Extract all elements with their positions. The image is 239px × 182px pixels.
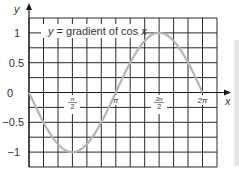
page-edge-bar <box>234 40 239 166</box>
x-axis-arrow-icon <box>224 90 231 96</box>
chart <box>0 0 239 182</box>
y-axis-arrow-icon <box>26 3 32 10</box>
